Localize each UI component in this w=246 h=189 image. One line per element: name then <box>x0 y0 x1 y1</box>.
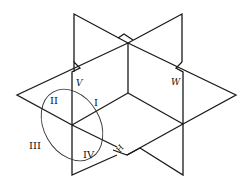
h-plane-front-right <box>127 124 183 155</box>
h-plane-front-left <box>72 125 117 147</box>
quadrant-label-2: II <box>50 95 58 106</box>
label-h: H <box>114 142 127 155</box>
projection-planes-diagram: V W H I II III IV <box>0 0 246 189</box>
label-w: W <box>171 77 181 87</box>
x-axis-inner <box>72 93 128 125</box>
quadrant-label-3: III <box>29 140 41 151</box>
quadrant-label-4: IV <box>83 149 95 160</box>
label-v: V <box>76 78 84 88</box>
v-plane-upper <box>74 14 128 62</box>
w-plane-upper <box>128 14 182 62</box>
y-axis-inner <box>128 93 183 124</box>
quadrant-label-1: I <box>94 97 98 108</box>
